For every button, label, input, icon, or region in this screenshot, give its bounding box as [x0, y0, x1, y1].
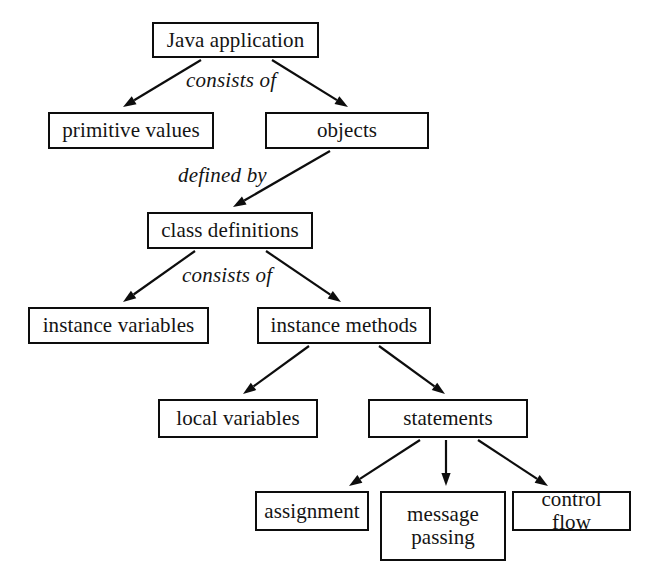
node-label: local variables [176, 407, 299, 430]
edge-label-consists-of-middle: consists of [182, 263, 272, 288]
arrowhead-instance-methods-to-statements [432, 383, 445, 394]
node-label: assignment [264, 500, 360, 523]
node-label: instance methods [271, 314, 418, 337]
node-statements[interactable]: statements [368, 399, 528, 438]
node-instance-variables[interactable]: instance variables [28, 307, 209, 344]
edge-line-instance-methods-to-local-variables [254, 346, 309, 386]
arrowhead-java-application-to-primitive-values [123, 96, 137, 107]
node-label: primitive values [62, 119, 200, 142]
edge-line-java-application-to-objects [272, 60, 337, 100]
node-message-passing[interactable]: message passing [380, 491, 506, 561]
arrowhead-statements-to-message-passing [441, 473, 450, 486]
edge-line-instance-methods-to-statements [379, 346, 434, 386]
node-label: objects [317, 119, 377, 142]
node-label: instance variables [43, 314, 195, 337]
node-primitive-values[interactable]: primitive values [48, 112, 214, 149]
node-class-definitions[interactable]: class definitions [147, 212, 313, 249]
arrowhead-class-definitions-to-instance-methods [328, 291, 341, 302]
edge-line-statements-to-assignment [360, 440, 420, 479]
node-assignment[interactable]: assignment [255, 491, 369, 531]
node-label: Java application [167, 29, 304, 52]
arrowhead-statements-to-control-flow [535, 475, 548, 486]
node-label: message passing [407, 503, 479, 548]
node-instance-methods[interactable]: instance methods [257, 307, 431, 344]
node-label: statements [403, 407, 493, 430]
edge-label-consists-of-top: consists of [186, 68, 276, 93]
edge-label-defined-by: defined by [178, 163, 267, 188]
node-java-application[interactable]: Java application [152, 22, 319, 58]
arrowhead-class-definitions-to-instance-variables [123, 291, 136, 302]
node-local-variables[interactable]: local variables [158, 399, 318, 438]
arrowhead-java-application-to-objects [335, 96, 348, 107]
node-objects[interactable]: objects [265, 112, 429, 149]
arrowhead-objects-to-class-definitions [233, 197, 247, 207]
edge-line-statements-to-control-flow [478, 440, 537, 479]
arrowhead-instance-methods-to-local-variables [243, 383, 256, 394]
arrowhead-statements-to-assignment [349, 475, 362, 486]
node-label: control flow [520, 488, 623, 533]
diagram-canvas: Java application primitive values object… [0, 0, 661, 583]
node-control-flow[interactable]: control flow [512, 491, 631, 531]
edge-line-class-definitions-to-instance-methods [266, 251, 330, 295]
node-label: class definitions [161, 219, 299, 242]
